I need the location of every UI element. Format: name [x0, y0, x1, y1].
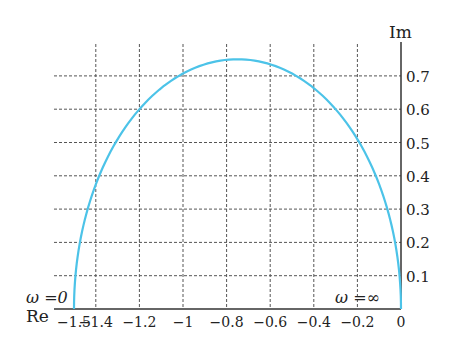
x-tick-label: −0.6 — [253, 314, 287, 330]
x-tick-label: −0.2 — [340, 314, 374, 330]
y-tick-label: 0.6 — [406, 101, 430, 119]
omega-infinity-annotation: ω =∞ — [335, 288, 380, 307]
x-tick-label: −1.2 — [122, 314, 156, 330]
nyquist-curve — [74, 59, 401, 309]
x-tick-label: −0.4 — [297, 314, 331, 330]
y-tick-label: 0.1 — [406, 268, 430, 286]
y-tick-label: 0.7 — [406, 68, 430, 86]
nyquist-chart: −1.5−1.4−1.2−1−0.8−0.6−0.4−0.200.10.20.3… — [0, 0, 452, 346]
x-axis-label: Re — [26, 306, 49, 326]
x-tick-label: −1 — [173, 314, 194, 330]
x-tick-label: −1.4 — [79, 314, 113, 330]
y-tick-label: 0.5 — [406, 135, 430, 153]
x-tick-label: −0.8 — [210, 314, 244, 330]
grid-lines — [54, 44, 401, 309]
y-tick-label: 0.4 — [406, 168, 430, 186]
x-tick-label: 0 — [397, 314, 406, 330]
omega-zero-annotation: ω =0 — [26, 288, 68, 307]
y-axis-label: Im — [389, 22, 412, 42]
y-tick-label: 0.2 — [406, 234, 430, 252]
y-tick-label: 0.3 — [406, 201, 430, 219]
